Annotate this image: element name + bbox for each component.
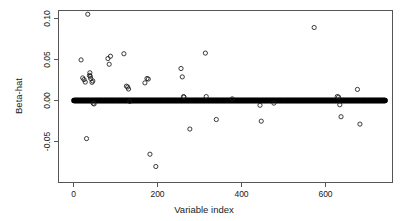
chart-canvas: 0.10 0.05 0.00 -0.05 0 200 400 600 Varia… — [0, 0, 409, 221]
x-tick-label-1: 200 — [150, 189, 164, 199]
x-tick-label-3: 600 — [318, 189, 332, 199]
y-tick-label-2: 0.00 — [42, 92, 52, 109]
y-tick-label-0: 0.10 — [42, 10, 52, 27]
x-axis-title: Variable index — [174, 204, 234, 215]
y-tick-label-1: 0.05 — [42, 51, 52, 68]
scatter-plot-figure: 0.10 0.05 0.00 -0.05 0 200 400 600 Varia… — [0, 0, 409, 221]
x-tick-label-0: 0 — [71, 189, 76, 199]
x-tick-label-2: 400 — [234, 189, 248, 199]
y-axis-title: Beta-hat — [13, 78, 24, 114]
y-tick-label-3: -0.05 — [42, 132, 52, 152]
plot-background — [0, 0, 409, 221]
